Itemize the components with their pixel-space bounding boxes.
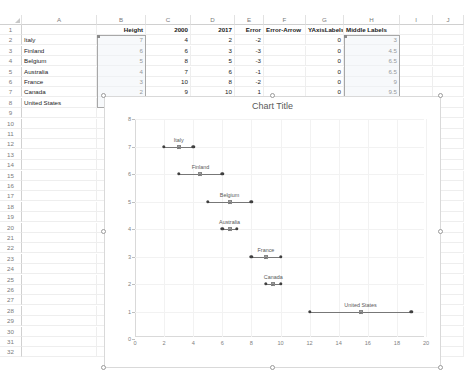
data-point-middle-label[interactable] <box>228 200 232 204</box>
column-header-b[interactable]: B <box>97 15 146 25</box>
cell-I2[interactable] <box>400 35 433 45</box>
cell-A12[interactable] <box>22 139 97 149</box>
cell-A21[interactable] <box>22 233 97 243</box>
cell-F4[interactable] <box>264 56 306 66</box>
row-header-32[interactable]: 32 <box>0 347 22 357</box>
column-header-e[interactable]: E <box>235 15 264 25</box>
cell-A17[interactable] <box>22 191 97 201</box>
cell-A9[interactable] <box>22 108 97 118</box>
cell-C5[interactable]: 7 <box>146 67 191 77</box>
cell-C3[interactable]: 6 <box>146 46 191 56</box>
header-cell-b[interactable]: Height <box>97 25 146 35</box>
cell-E2[interactable]: -2 <box>235 35 264 45</box>
cell-A25[interactable] <box>22 275 97 285</box>
row-header-29[interactable]: 29 <box>0 316 22 326</box>
cell-A6[interactable]: France <box>22 77 97 87</box>
cell-D4[interactable]: 5 <box>191 56 235 66</box>
row-header-24[interactable]: 24 <box>0 264 22 274</box>
row-header-19[interactable]: 19 <box>0 212 22 222</box>
cell-I6[interactable] <box>400 77 433 87</box>
header-cell-j[interactable] <box>433 25 464 35</box>
cell-A16[interactable] <box>22 181 97 191</box>
row-header-13[interactable]: 13 <box>0 150 22 160</box>
data-point-middle-label[interactable] <box>198 172 202 176</box>
cell-D5[interactable]: 6 <box>191 67 235 77</box>
row-header-11[interactable]: 11 <box>0 129 22 139</box>
cell-A28[interactable] <box>22 306 97 316</box>
row-header-22[interactable]: 22 <box>0 243 22 253</box>
cell-A2[interactable]: Italy <box>22 35 97 45</box>
cell-A24[interactable] <box>22 264 97 274</box>
cell-E5[interactable]: -1 <box>235 67 264 77</box>
cell-G4[interactable]: 0 <box>306 56 344 66</box>
row-header-26[interactable]: 26 <box>0 285 22 295</box>
cell-A23[interactable] <box>22 254 97 264</box>
cell-A7[interactable]: Canada <box>22 87 97 97</box>
data-point-middle-label[interactable] <box>228 227 232 231</box>
row-header-31[interactable]: 31 <box>0 337 22 347</box>
cell-J3[interactable] <box>433 46 464 56</box>
cell-C6[interactable]: 10 <box>146 77 191 87</box>
row-header-1[interactable]: 1 <box>0 25 22 35</box>
row-header-8[interactable]: 8 <box>0 98 22 108</box>
cell-A27[interactable] <box>22 295 97 305</box>
cell-H3[interactable]: 4.5 <box>344 46 400 56</box>
scatter-chart[interactable]: Chart Title 012345678 02468101214161820 … <box>104 96 441 368</box>
chart-title[interactable]: Chart Title <box>105 101 440 111</box>
row-header-25[interactable]: 25 <box>0 275 22 285</box>
column-header-j[interactable]: J <box>433 15 464 25</box>
cell-I5[interactable] <box>400 67 433 77</box>
row-header-21[interactable]: 21 <box>0 233 22 243</box>
cell-E4[interactable]: -3 <box>235 56 264 66</box>
cell-A32[interactable] <box>22 347 97 357</box>
data-point-middle-label[interactable] <box>271 282 275 286</box>
cell-G2[interactable]: 0 <box>306 35 344 45</box>
header-cell-e[interactable]: Error <box>235 25 264 35</box>
row-header-20[interactable]: 20 <box>0 223 22 233</box>
handle-e[interactable] <box>438 229 443 234</box>
cell-D2[interactable]: 2 <box>191 35 235 45</box>
data-point-middle-label[interactable] <box>264 255 268 259</box>
handle-s[interactable] <box>270 365 275 370</box>
cell-A14[interactable] <box>22 160 97 170</box>
cell-F2[interactable] <box>264 35 306 45</box>
handle-se[interactable] <box>438 365 443 370</box>
row-header-5[interactable]: 5 <box>0 67 22 77</box>
handle-sw[interactable] <box>101 365 106 370</box>
cell-J4[interactable] <box>433 56 464 66</box>
cell-G3[interactable]: 0 <box>306 46 344 56</box>
row-header-30[interactable]: 30 <box>0 327 22 337</box>
header-cell-a[interactable] <box>22 25 97 35</box>
cell-B2[interactable]: 7 <box>97 35 146 45</box>
cell-A10[interactable] <box>22 119 97 129</box>
cell-H4[interactable]: 6.5 <box>344 56 400 66</box>
cell-A11[interactable] <box>22 129 97 139</box>
cell-F5[interactable] <box>264 67 306 77</box>
cell-J6[interactable] <box>433 77 464 87</box>
cell-A22[interactable] <box>22 243 97 253</box>
column-header-f[interactable]: F <box>264 15 306 25</box>
cell-B3[interactable]: 6 <box>97 46 146 56</box>
cell-A29[interactable] <box>22 316 97 326</box>
cell-J5[interactable] <box>433 67 464 77</box>
cell-J2[interactable] <box>433 35 464 45</box>
row-header-3[interactable]: 3 <box>0 46 22 56</box>
column-header-a[interactable]: A <box>22 15 97 25</box>
column-header-i[interactable]: I <box>400 15 433 25</box>
row-header-4[interactable]: 4 <box>0 56 22 66</box>
cell-B6[interactable]: 3 <box>97 77 146 87</box>
cell-E6[interactable]: -2 <box>235 77 264 87</box>
header-cell-f[interactable]: Error-Arrow <box>264 25 306 35</box>
header-cell-h[interactable]: Middle Labels <box>344 25 400 35</box>
cell-A4[interactable]: Belgium <box>22 56 97 66</box>
cell-H2[interactable]: 3 <box>344 35 400 45</box>
cell-F6[interactable] <box>264 77 306 87</box>
cell-G6[interactable]: 0 <box>306 77 344 87</box>
cell-A31[interactable] <box>22 337 97 347</box>
cell-A8[interactable]: United States <box>22 98 97 108</box>
row-header-7[interactable]: 7 <box>0 87 22 97</box>
cell-B4[interactable]: 5 <box>97 56 146 66</box>
cell-B5[interactable]: 4 <box>97 67 146 77</box>
cell-E3[interactable]: -3 <box>235 46 264 56</box>
cell-C2[interactable]: 4 <box>146 35 191 45</box>
